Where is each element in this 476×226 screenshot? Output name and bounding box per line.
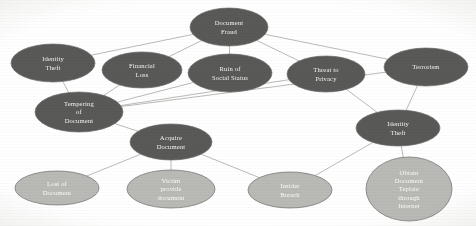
node-shape-threat-to-privacy[interactable]: [287, 56, 365, 92]
node-financial-loss[interactable]: FinancialLoss: [102, 52, 182, 88]
node-shape-lost-of-document[interactable]: [15, 171, 99, 205]
node-label-line: document: [157, 194, 184, 201]
edge-insider-breach-to-identity-theft-right: [315, 142, 373, 175]
node-label-line: Financial: [129, 62, 155, 69]
node-label-line: Document: [157, 143, 186, 150]
edge-terrorism-to-document-fraud: [265, 34, 388, 59]
edge-insider-breach-to-acquire-document: [201, 154, 259, 177]
node-label-line: Document: [215, 19, 244, 26]
node-label-line: through: [398, 194, 420, 201]
node-label-line: provide: [160, 185, 181, 192]
node-shape-document-fraud[interactable]: [190, 8, 268, 46]
edge-threat-to-privacy-to-document-fraud: [257, 40, 299, 61]
node-label-line: Privacy: [315, 75, 337, 82]
edge-financial-loss-to-document-fraud: [169, 41, 202, 57]
node-threat-to-privacy[interactable]: Threat toPrivacy: [287, 56, 365, 92]
node-shape-identity-theft-left[interactable]: [11, 44, 95, 82]
node-shape-identity-theft-right[interactable]: [356, 110, 440, 146]
node-label-line: Lost of: [47, 180, 68, 187]
node-ruin-of-social-status[interactable]: Ruin ofSocial Status: [188, 54, 272, 92]
node-label-line: Social Status: [212, 74, 248, 81]
node-label-line: Terrorism: [412, 63, 440, 70]
node-label-line: Tempering: [64, 100, 94, 107]
node-terrorism[interactable]: Terrorism: [384, 48, 468, 86]
node-label-line: Fraud: [221, 28, 238, 35]
node-label-line: Identity: [42, 55, 64, 62]
edge-identity-theft-right-to-threat-to-privacy: [346, 89, 377, 112]
node-label-line: Loss: [135, 71, 148, 78]
node-label-line: Document: [395, 177, 424, 184]
node-label-line: Document: [65, 117, 94, 124]
node-label-line: Internet: [398, 202, 420, 209]
node-victim-provide-document[interactable]: Victimprovidedocument: [127, 170, 215, 208]
node-label-line: Document: [43, 189, 72, 196]
node-label-terrorism: Terrorism: [412, 63, 440, 70]
node-label-line: Insider: [280, 182, 300, 189]
node-label-line: of: [76, 108, 82, 115]
node-layer: DocumentFraudIdentityTheftFinancialLossR…: [11, 8, 468, 221]
node-tempering-of-document[interactable]: TemperingofDocument: [35, 92, 123, 132]
node-identity-theft-right[interactable]: IdentityTheft: [356, 110, 440, 146]
node-label-line: Breach: [280, 191, 300, 198]
node-label-line: Teplate: [399, 185, 419, 192]
node-label-line: Ruin of: [219, 65, 241, 72]
node-shape-ruin-of-social-status[interactable]: [188, 54, 272, 92]
node-obtain-document-teplate-through-internet[interactable]: ObtainDocumentTeplatethroughInternet: [366, 157, 452, 221]
edge-lost-of-document-to-acquire-document: [87, 154, 141, 176]
node-shape-financial-loss[interactable]: [102, 52, 182, 88]
edge-tempering-of-document-to-identity-theft-left: [63, 81, 69, 92]
node-shape-acquire-document[interactable]: [130, 124, 212, 160]
node-lost-of-document[interactable]: Lost ofDocument: [15, 171, 99, 205]
node-label-line: Theft: [45, 64, 60, 71]
node-label-line: Theft: [390, 129, 405, 136]
node-label-line: Victim: [162, 177, 182, 184]
node-shape-insider-breach[interactable]: [248, 172, 332, 208]
node-label-line: Identity: [387, 120, 409, 127]
node-document-fraud[interactable]: DocumentFraud: [190, 8, 268, 46]
edge-identity-theft-right-to-terrorism: [406, 86, 417, 111]
edge-obtain-document-teplate-through-internet-to-identity-theft-right: [401, 146, 403, 157]
node-identity-theft-left[interactable]: IdentityTheft: [11, 44, 95, 82]
node-label-line: Acquire: [160, 134, 182, 141]
edge-acquire-document-to-tempering-of-document: [115, 124, 138, 132]
edge-tempering-of-document-to-financial-loss: [104, 85, 120, 96]
node-label-line: Obtain: [400, 169, 419, 176]
attack-tree-graph: DocumentFraudIdentityTheftFinancialLossR…: [0, 0, 476, 226]
node-insider-breach[interactable]: InsiderBreach: [248, 172, 332, 208]
node-acquire-document[interactable]: AcquireDocument: [130, 124, 212, 160]
node-label-line: Threat to: [313, 66, 339, 73]
diagram-canvas: DocumentFraudIdentityTheftFinancialLossR…: [0, 0, 476, 226]
